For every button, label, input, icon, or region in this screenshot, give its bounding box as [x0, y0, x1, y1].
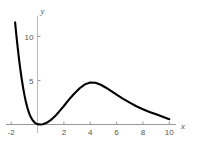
x-tick-label: 6: [114, 128, 119, 137]
function-plot: 510 -2246810 x y: [0, 0, 197, 149]
x-axis-ticks: -2246810: [8, 122, 175, 137]
plot-canvas: 510 -2246810 x y: [0, 0, 197, 149]
x-tick-label: 8: [141, 128, 146, 137]
x-tick-label: 4: [88, 128, 93, 137]
y-axis-ticks: 510: [25, 33, 41, 86]
y-axis-label: y: [40, 6, 45, 16]
x-tick-label: 2: [62, 128, 67, 137]
data-curve: [15, 22, 169, 124]
x-tick-label: -2: [8, 128, 16, 137]
x-axis-group: -2246810: [6, 122, 176, 137]
x-tick-label: 10: [165, 128, 174, 137]
x-axis-label: x: [180, 121, 185, 131]
y-tick-label: 10: [25, 33, 34, 42]
y-axis-group: 510: [25, 16, 41, 133]
y-tick-label: 5: [29, 77, 34, 86]
